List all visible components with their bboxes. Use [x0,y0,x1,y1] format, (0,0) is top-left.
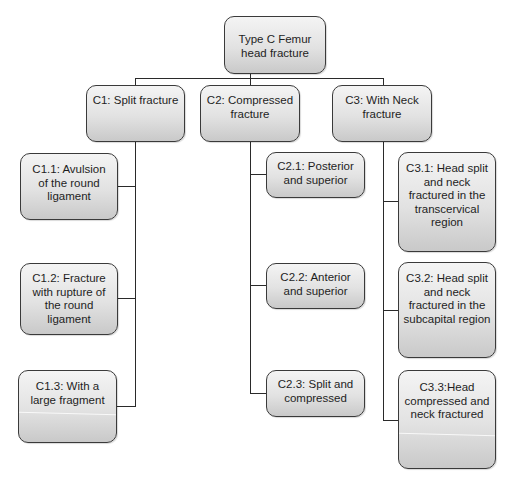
node-c1-label: C1: Split fracture [93,94,179,106]
connector-c2-spine [250,142,251,394]
connector-c3-1 [383,201,398,202]
node-c2-1-label: C2.1: Posterior and superior [277,160,354,186]
connector-c3-3 [383,420,398,421]
node-c1-1: C1.1: Avulsion of the round ligament [20,153,118,220]
node-c3-1: C3.1: Head split and neck fractured in t… [398,152,496,252]
connector-c2-2 [250,285,266,286]
connector-c3-2 [383,310,398,311]
gloss-highlight [399,433,495,437]
node-c2-1: C2.1: Posterior and superior [266,152,365,198]
connector-trunk [135,78,384,79]
node-c2-3-label: C2.3: Split and compressed [278,378,353,404]
node-c3-2: C3.2: Head split and neck fractured in t… [398,262,496,358]
connector-c1-3 [117,406,136,407]
connector-c2-3 [250,393,266,394]
connector-c2-1 [250,174,266,175]
node-c3: C3: With Neck fracture [332,85,432,142]
connector-to-c2 [250,78,251,85]
connector-c1-2 [118,298,136,299]
node-c3-3-label: C3.3:Head compressed and neck fractured [404,381,489,420]
node-c2-2: C2.2: Anterior and superior [266,263,365,309]
connector-to-c1 [135,78,136,85]
node-root: Type C Femur head fracture [224,16,326,74]
connector-c1-1 [118,186,136,187]
node-c1-2: C1.2: Fracture with rupture of the round… [20,263,118,335]
node-c3-label: C3: With Neck fracture [345,94,419,120]
fracture-classification-tree: Type C Femur head fracture C1: Split fra… [0,0,512,485]
node-c1-3: C1.3: With a large fragment [18,370,117,443]
node-c1-2-label: C1.2: Fracture with rupture of the round… [32,272,106,325]
node-c2-3: C2.3: Split and compressed [266,370,365,417]
node-c1-1-label: C1.1: Avulsion of the round ligament [32,163,105,202]
node-c3-2-label: C3.2: Head split and neck fractured in t… [404,272,491,325]
connector-c3-spine [383,142,384,421]
node-c2: C2: Compressed fracture [200,85,300,142]
node-c3-1-label: C3.1: Head split and neck fractured in t… [406,162,488,228]
node-c2-label: C2: Compressed fracture [207,94,293,120]
connector-to-c3 [383,78,384,85]
node-c1-3-label: C1.3: With a large fragment [30,380,104,406]
node-c1: C1: Split fracture [86,85,185,142]
node-c2-2-label: C2.2: Anterior and superior [280,271,350,297]
connector-c1-spine [135,142,136,407]
gloss-highlight [19,412,116,416]
node-c3-3: C3.3:Head compressed and neck fractured [398,370,496,469]
node-root-label: Type C Femur head fracture [239,33,312,59]
